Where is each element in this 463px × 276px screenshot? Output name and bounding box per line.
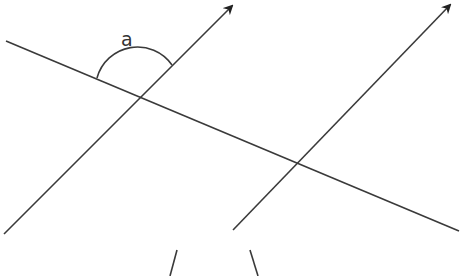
angle-label: a	[121, 30, 133, 49]
angle-arc	[97, 47, 172, 78]
partial-line-left	[170, 250, 177, 276]
transversal-line	[6, 41, 459, 231]
diagram-svg	[0, 0, 463, 276]
parallel-line-2	[233, 5, 450, 230]
partial-line-right	[250, 250, 258, 276]
parallel-line-1	[4, 6, 232, 234]
diagram-canvas: a	[0, 0, 463, 276]
